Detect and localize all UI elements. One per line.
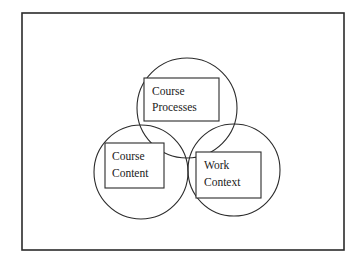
diagram-canvas: Course Processes Course Content Work Con… [0,0,362,269]
work-context-label-group: Work Context [196,152,261,198]
work-context-line-2: Context [204,176,241,188]
course-content-line-2: Content [112,167,149,179]
outer-border [22,13,344,250]
course-processes-line-2: Processes [152,101,197,113]
course-content-line-1: Course [112,150,145,162]
course-content-label-group: Course Content [105,143,164,188]
three-circle-venn-diagram: Course Processes Course Content Work Con… [0,0,362,269]
work-context-line-1: Work [204,159,230,171]
course-processes-label-group: Course Processes [144,78,219,121]
course-processes-line-1: Course [152,85,185,97]
